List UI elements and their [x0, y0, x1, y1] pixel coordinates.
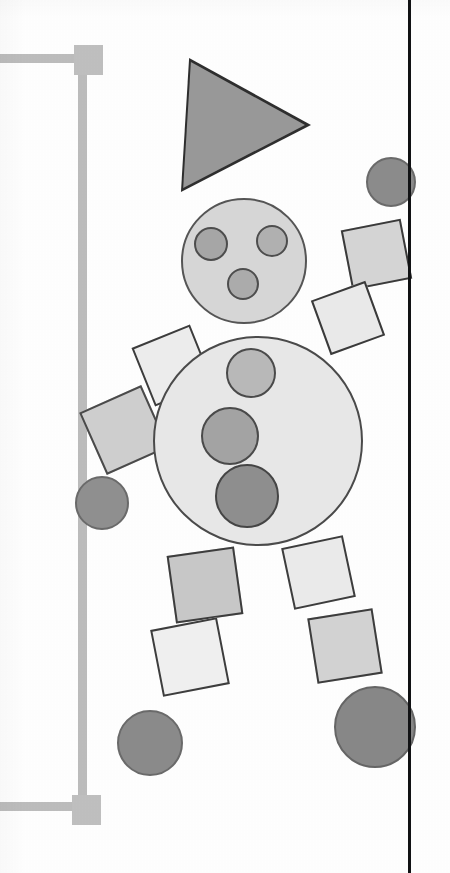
scene-canvas [0, 0, 450, 873]
face-dot-left [194, 227, 228, 261]
body-button-middle [201, 407, 259, 465]
triangle-hat [181, 58, 315, 193]
right-arm-upper-square [340, 218, 412, 290]
bracket-vertical-bar [78, 58, 87, 806]
bracket-bottom-corner-node [72, 795, 101, 825]
head-circle [181, 198, 307, 324]
bracket-top-arm [0, 54, 84, 63]
face-dot-lower [227, 268, 259, 300]
face-dot-right [256, 225, 288, 257]
left-leg-upper-square [167, 547, 244, 624]
right-foot-circle [334, 686, 416, 768]
left-foot-circle [117, 710, 183, 776]
right-arm-lower-square [311, 281, 385, 355]
right-leg-lower-square [307, 608, 383, 684]
body-button-bottom [215, 464, 279, 528]
bracket-top-corner-node [74, 45, 103, 75]
body-button-top [226, 348, 276, 398]
left-hand-circle [75, 476, 129, 530]
left-leg-lower-square [150, 617, 230, 697]
triangle-hat-fill [183, 62, 309, 188]
page-margin-rule [408, 0, 411, 873]
right-leg-upper-square [281, 535, 356, 610]
